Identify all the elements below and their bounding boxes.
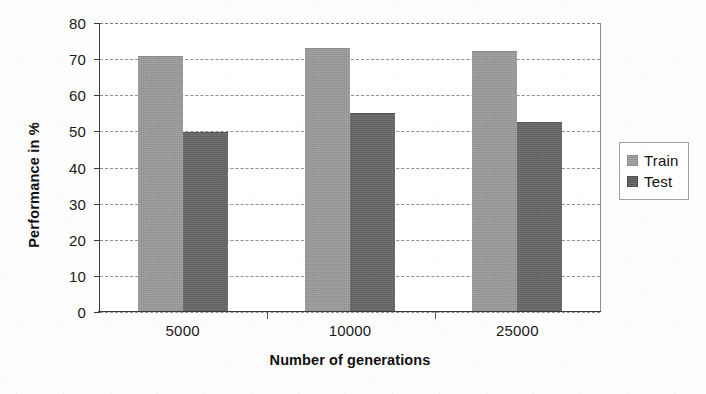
y-axis-tick xyxy=(94,95,100,96)
y-axis-tick xyxy=(94,59,100,60)
x-axis-tick xyxy=(267,312,268,319)
plot-top-frame-line xyxy=(100,23,600,24)
y-axis-tick xyxy=(94,168,100,169)
y-axis-tick-label: 10 xyxy=(0,267,86,284)
bar-train-10000[interactable] xyxy=(305,48,350,312)
y-axis-tick xyxy=(94,23,100,24)
x-axis-tick-label: 5000 xyxy=(166,322,200,339)
gridline xyxy=(100,312,600,313)
bar-chart: Performance in % 01020304050607080 50001… xyxy=(0,0,706,394)
x-axis-tick-label: 10000 xyxy=(329,322,372,339)
y-axis-tick xyxy=(94,276,100,277)
x-axis-tick-label: 25000 xyxy=(496,322,539,339)
y-axis-tick-label: 40 xyxy=(0,159,86,176)
plot-area xyxy=(99,23,601,312)
bar-test-5000[interactable] xyxy=(183,132,228,312)
x-axis-line xyxy=(98,311,601,312)
y-axis-title-text: Performance in % xyxy=(26,122,42,248)
y-axis-tick-label: 80 xyxy=(0,15,86,32)
legend-label-test: Test xyxy=(644,173,672,190)
legend-item-test[interactable]: Test xyxy=(627,171,679,192)
x-axis-title: Number of generations xyxy=(99,352,601,368)
y-axis-tick xyxy=(94,204,100,205)
y-axis-tick xyxy=(94,240,100,241)
y-axis-tick-label: 50 xyxy=(0,123,86,140)
y-axis-tick-label: 0 xyxy=(0,304,86,321)
y-axis-tick-label: 20 xyxy=(0,231,86,248)
y-axis-tick-label: 30 xyxy=(0,195,86,212)
legend-swatch-test-icon xyxy=(627,176,638,187)
bar-train-5000[interactable] xyxy=(138,56,183,312)
bar-train-25000[interactable] xyxy=(472,51,517,312)
bar-test-25000[interactable] xyxy=(517,122,562,312)
legend-label-train: Train xyxy=(644,152,679,169)
legend-swatch-train-icon xyxy=(627,155,638,166)
legend: Train Test xyxy=(619,142,689,200)
y-axis-tick xyxy=(94,131,100,132)
y-axis-tick-label: 60 xyxy=(0,87,86,104)
plot-inner xyxy=(100,23,600,312)
y-axis-tick xyxy=(94,312,100,313)
bar-test-10000[interactable] xyxy=(350,113,395,312)
y-axis-tick-label: 70 xyxy=(0,51,86,68)
x-axis-tick xyxy=(435,312,436,319)
legend-item-train[interactable]: Train xyxy=(627,150,679,171)
